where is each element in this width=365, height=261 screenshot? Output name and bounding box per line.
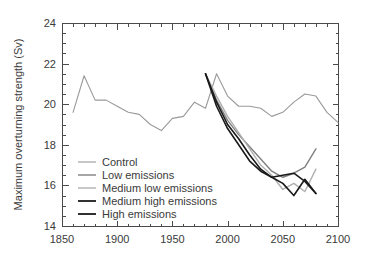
chart-canvas: 185019001950200020502100141618202224Maxi…	[0, 0, 365, 261]
series-line-control	[73, 74, 338, 131]
y-tick-label: 20	[44, 98, 56, 110]
y-axis-title: Maximum overturning strength (Sv)	[12, 39, 24, 211]
y-tick-label: 22	[44, 58, 56, 70]
series-line-medium-high-emissions	[206, 74, 316, 194]
legend-label-4: High emissions	[102, 208, 177, 220]
legend-label-3: Medium high emissions	[102, 195, 217, 207]
series-line-medium-low-emissions	[206, 74, 316, 192]
legend-label-2: Medium low emissions	[102, 182, 213, 194]
x-tick-label: 2100	[326, 233, 350, 245]
x-tick-label: 2000	[215, 233, 239, 245]
y-tick-label: 16	[44, 179, 56, 191]
x-tick-label: 2050	[271, 233, 295, 245]
legend-label-1: Low emissions	[102, 169, 175, 181]
series-line-low-emissions	[206, 74, 316, 178]
chart-figure: 185019001950200020502100141618202224Maxi…	[0, 0, 365, 261]
x-tick-label: 1900	[105, 233, 129, 245]
x-tick-label: 1850	[50, 233, 74, 245]
y-tick-label: 24	[44, 17, 56, 29]
x-tick-label: 1950	[160, 233, 184, 245]
legend-label-0: Control	[102, 156, 137, 168]
y-tick-label: 14	[44, 220, 56, 232]
y-tick-label: 18	[44, 139, 56, 151]
